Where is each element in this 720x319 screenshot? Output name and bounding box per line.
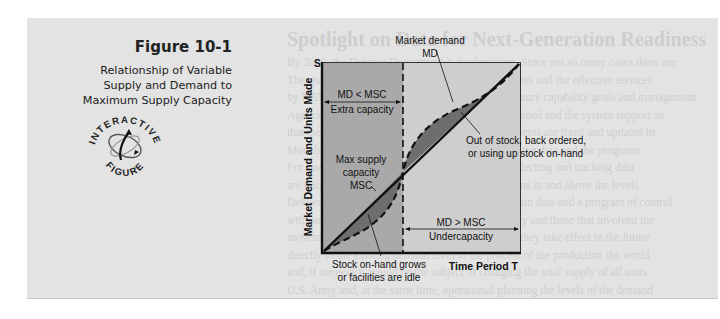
undercapacity-sublabel: Undercapacity bbox=[429, 231, 493, 242]
caption-line: Maximum Supply Capacity bbox=[40, 93, 232, 108]
figure-caption: Relationship of Variable Supply and Dema… bbox=[40, 63, 232, 108]
msc-label: Max supply bbox=[336, 154, 387, 165]
extra-capacity-title: MD < MSC bbox=[337, 89, 386, 100]
msc-sublabel: capacity bbox=[343, 167, 380, 178]
caption-line: Supply and Demand to bbox=[40, 78, 232, 93]
undercapacity-title: MD > MSC bbox=[436, 217, 485, 228]
out-of-stock-label: Out of stock, back ordered, bbox=[466, 135, 586, 146]
market-demand-sublabel: MD bbox=[422, 48, 438, 59]
x-axis-label: Time Period T bbox=[449, 260, 519, 272]
figure-number: Figure 10-1 bbox=[135, 38, 232, 56]
stock-grows-label: Stock on-hand grows bbox=[332, 259, 426, 270]
out-of-stock-sublabel: or using up stock on-hand bbox=[468, 148, 583, 159]
stock-grows-sublabel: or facilities are idle bbox=[338, 272, 421, 283]
msc-sublabel-2: MSC bbox=[350, 180, 372, 191]
badge-top-text: INTERACTIVE bbox=[86, 114, 163, 146]
y-axis-top-label: S bbox=[314, 58, 321, 69]
y-axis-label: Market Demand and Units Made bbox=[302, 77, 314, 236]
badge-bottom-text: FIGURE bbox=[104, 159, 147, 178]
interactive-figure-icon[interactable]: INTERACTIVE FIGURE bbox=[80, 110, 170, 182]
extra-capacity-sublabel: Extra capacity bbox=[331, 104, 394, 115]
supply-demand-chart: S Market Demand and Units Made Time Peri… bbox=[270, 18, 600, 298]
market-demand-label: Market demand bbox=[395, 35, 464, 46]
caption-line: Relationship of Variable bbox=[40, 63, 232, 78]
